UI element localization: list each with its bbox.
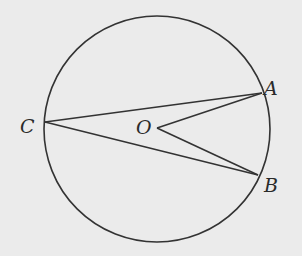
circle-diagram: A B C O [0,0,302,256]
label-C: C [20,115,35,137]
label-O: O [136,116,152,138]
segment-OB [157,128,258,175]
circle-outline [44,16,270,242]
label-A: A [262,77,278,99]
segment-OA [157,93,262,128]
diagram-canvas: A B C O [0,0,302,256]
segment-CA [45,93,262,122]
label-B: B [263,174,278,196]
